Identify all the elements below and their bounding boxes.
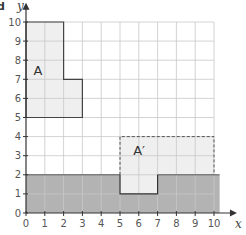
y-tick-label: 0 xyxy=(15,208,21,219)
y-tick-label: 3 xyxy=(15,150,21,161)
x-tick-label: 3 xyxy=(79,218,85,229)
x-tick-label: 2 xyxy=(60,218,66,229)
shape-a-label: A xyxy=(34,63,43,78)
y-tick-label: 10 xyxy=(8,17,21,28)
y-tick-label: 4 xyxy=(15,131,21,142)
y-tick-label: 7 xyxy=(15,74,21,85)
x-tick-label: 0 xyxy=(23,218,29,229)
x-tick-label: 4 xyxy=(98,218,104,229)
x-tick-label: 10 xyxy=(208,218,221,229)
x-tick-label: 1 xyxy=(42,218,48,229)
x-tick-label: 5 xyxy=(117,218,123,229)
y-tick-label: 8 xyxy=(15,55,21,66)
part-label: d xyxy=(0,0,5,13)
coordinate-diagram: 012345678910012345678910xyAA′d xyxy=(0,0,246,235)
x-tick-label: 7 xyxy=(154,218,160,229)
shape-a-prime-label: A′ xyxy=(133,143,145,158)
y-tick-label: 6 xyxy=(15,93,21,104)
x-axis-arrow-icon xyxy=(230,210,237,217)
y-tick-label: 9 xyxy=(15,36,21,47)
x-tick-label: 8 xyxy=(173,218,179,229)
x-tick-label: 6 xyxy=(136,218,142,229)
y-tick-label: 5 xyxy=(15,112,21,123)
x-tick-label: 9 xyxy=(192,218,198,229)
y-axis-label: y xyxy=(16,0,24,13)
x-axis-label: x xyxy=(235,217,242,231)
y-tick-label: 2 xyxy=(15,169,21,180)
y-tick-label: 1 xyxy=(15,188,21,199)
